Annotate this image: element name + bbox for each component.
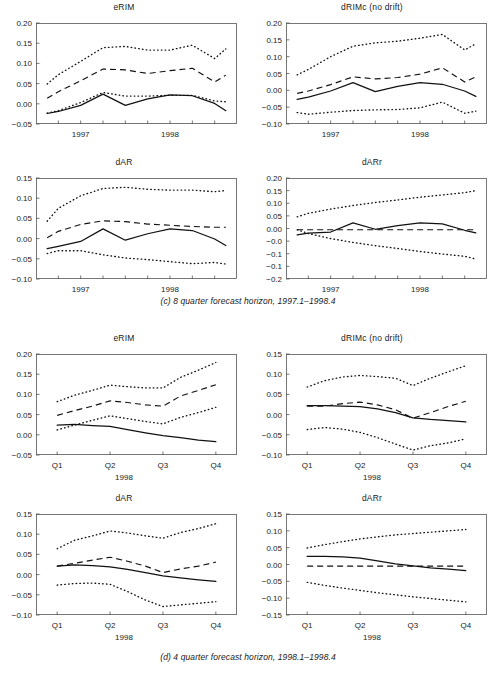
y-tick-label: 0.00 xyxy=(0,99,32,108)
x-tick-label: 1998 xyxy=(411,130,429,139)
panel-title: dRIMc (no drift) xyxy=(248,2,496,12)
y-tick-label: −0.05 xyxy=(0,590,32,599)
y-tick-label: 0.15 xyxy=(0,39,32,48)
y-tick-label: −0.2 xyxy=(250,275,282,284)
plot-svg xyxy=(36,354,237,455)
y-tick-label: 0.10 xyxy=(250,370,282,379)
y-tick-label: 0.00 xyxy=(0,234,32,243)
y-tick-label: −0.05 xyxy=(0,254,32,263)
series-solid xyxy=(297,83,476,100)
series-solid xyxy=(47,229,226,249)
panel-c-dar: dAR 0.150.100.050.00−0.05−0.1019971998 xyxy=(0,157,248,307)
y-tick-label: −0.05 xyxy=(0,120,32,129)
y-tick-label: −0.10 xyxy=(250,120,282,129)
y-tick-label: 0.05 xyxy=(250,543,282,552)
y-tick-label: 0.10 xyxy=(250,199,282,208)
x-tick-label: 1998 xyxy=(161,130,179,139)
y-tick-label: −0.10 xyxy=(0,275,32,284)
x-tick-label: 1997 xyxy=(72,285,90,294)
y-tick-label: 0.15 xyxy=(0,174,32,183)
panel-title: dRIMc (no drift) xyxy=(248,333,496,343)
y-tick-label: 0.00 xyxy=(250,224,282,233)
x-tick-label: Q2 xyxy=(355,621,366,630)
y-tick-label: 0.10 xyxy=(0,59,32,68)
x-tick-label: Q2 xyxy=(105,461,116,470)
y-tick-label: 0.15 xyxy=(0,510,32,519)
y-tick-label: −0.1 xyxy=(250,262,282,271)
series-dashed xyxy=(57,385,216,416)
plot-svg xyxy=(286,514,487,615)
y-tick-label: 0.00 xyxy=(250,560,282,569)
y-tick-label: −0.1 xyxy=(250,249,282,258)
y-tick-label: 0.20 xyxy=(0,350,32,359)
y-tick-label: 0.10 xyxy=(0,390,32,399)
series-dotted xyxy=(297,34,476,74)
plot-svg xyxy=(286,354,487,455)
panel-d-erim: eRIM 1998 0.200.150.100.050.00−0.05Q1Q2Q… xyxy=(0,333,248,493)
y-tick-label: 0.05 xyxy=(0,550,32,559)
x-tick-label: 1997 xyxy=(322,130,340,139)
plot-svg xyxy=(286,23,487,124)
y-tick-label: −0.10 xyxy=(250,594,282,603)
x-axis-name: 1998 xyxy=(248,473,496,482)
series-dotted xyxy=(307,582,466,602)
x-tick-label: Q2 xyxy=(355,461,366,470)
series-dotted xyxy=(57,583,216,606)
panel-title: eRIM xyxy=(0,2,248,12)
y-tick-label: 0.15 xyxy=(250,35,282,44)
x-tick-label: Q3 xyxy=(158,621,169,630)
series-dotted xyxy=(57,407,216,430)
x-axis-name: 1998 xyxy=(0,473,248,482)
panel-title: dAR xyxy=(0,493,248,503)
plot-area xyxy=(36,354,237,455)
y-tick-label: 0.15 xyxy=(0,370,32,379)
series-solid xyxy=(307,556,466,570)
x-tick-label: Q4 xyxy=(210,461,221,470)
x-tick-label: Q3 xyxy=(408,461,419,470)
x-tick-label: Q1 xyxy=(52,621,63,630)
plot-area xyxy=(36,23,237,124)
plot-area xyxy=(286,514,487,615)
series-dotted xyxy=(297,191,476,217)
x-tick-label: Q4 xyxy=(210,621,221,630)
y-tick-label: 0.00 xyxy=(250,410,282,419)
y-tick-label: 0.20 xyxy=(250,174,282,183)
y-tick-label: 0.15 xyxy=(250,350,282,359)
x-axis-name: 1998 xyxy=(248,633,496,642)
y-tick-label: 0.05 xyxy=(250,69,282,78)
series-dotted xyxy=(307,529,466,548)
y-tick-label: 0.10 xyxy=(250,52,282,61)
series-solid xyxy=(57,565,216,582)
y-tick-label: 0.20 xyxy=(250,19,282,28)
series-solid xyxy=(297,223,476,235)
y-tick-label: 0.00 xyxy=(0,570,32,579)
y-tick-label: −0.10 xyxy=(250,451,282,460)
y-tick-label: 0.15 xyxy=(250,186,282,195)
y-tick-label: −0.10 xyxy=(0,611,32,620)
panel-c-darr: dARr 0.200.150.100.050.00−0.0−0.1−0.1−0.… xyxy=(248,157,496,307)
y-tick-label: −0.05 xyxy=(0,451,32,460)
panel-title: dARr xyxy=(248,493,496,503)
y-tick-label: 0.05 xyxy=(250,211,282,220)
panel-title: eRIM xyxy=(0,333,248,343)
y-tick-label: −0.05 xyxy=(250,430,282,439)
plot-area xyxy=(286,23,487,124)
y-tick-label: 0.20 xyxy=(0,19,32,28)
plot-svg xyxy=(286,178,487,279)
caption-d: (d) 4 quarter forecast horizon, 1998.1–1… xyxy=(0,652,496,662)
x-tick-label: 1997 xyxy=(322,285,340,294)
y-tick-label: 0.00 xyxy=(0,430,32,439)
figure-panels-c-and-d: eRIM 0.200.150.100.050.00−0.0519971998 d… xyxy=(0,0,496,673)
plot-area xyxy=(286,354,487,455)
plot-svg xyxy=(36,178,237,279)
series-dotted xyxy=(307,366,466,387)
y-tick-label: −0.05 xyxy=(250,577,282,586)
x-tick-label: Q4 xyxy=(460,461,471,470)
x-tick-label: Q2 xyxy=(105,621,116,630)
series-dotted xyxy=(47,187,226,221)
x-tick-label: 1997 xyxy=(72,130,90,139)
plot-area xyxy=(286,178,487,279)
series-dotted xyxy=(57,524,216,549)
y-tick-label: −0.15 xyxy=(250,611,282,620)
x-tick-label: 1998 xyxy=(411,285,429,294)
